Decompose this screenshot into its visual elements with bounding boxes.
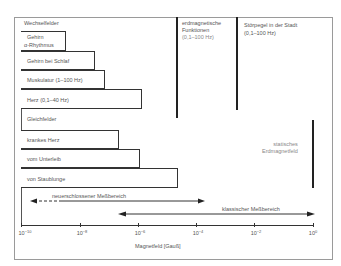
x-tick [80,223,81,227]
x-axis-line [21,225,313,226]
x-tick-label: 10−6 [135,229,146,236]
x-tick-label: 10−10 [19,229,32,236]
x-tick [196,223,197,227]
tick-exp: −4 [199,229,204,234]
x-tick-label: 100 [309,229,317,236]
x-axis-label: Magnetfeld [Gauß] [135,243,181,250]
x-tick [254,223,255,227]
tick-exp: −10 [25,229,32,234]
label-klassischer-messbereich: klassischer Meßbereich [222,206,280,213]
x-tick [138,223,139,227]
tick-exp: −2 [257,229,262,234]
tick-exp: −6 [141,229,146,234]
x-tick-label: 10−4 [193,229,204,236]
x-tick-label: 10−8 [77,229,88,236]
label-neuerschlossener-messbereich: neuerschlossener Meßbereich [52,193,126,200]
x-tick [21,223,22,227]
x-tick-label: 10−2 [251,229,262,236]
x-tick [313,223,314,227]
range-arrows [0,0,341,266]
tick-exp: −8 [83,229,88,234]
tick-exp: 0 [315,229,317,234]
